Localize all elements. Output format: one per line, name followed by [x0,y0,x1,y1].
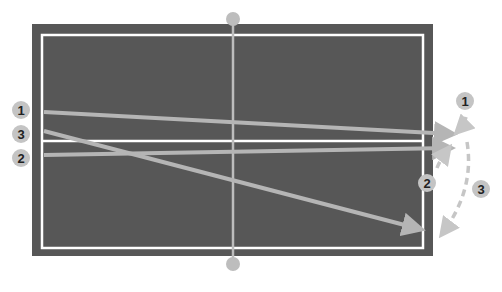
badge-number: 3 [17,127,24,142]
badge-number: 2 [17,151,24,166]
return-label-3: 3 [472,180,490,198]
return-label-2: 2 [418,174,436,192]
return-arrow-1 [457,117,466,132]
serve-label-2: 2 [12,149,30,167]
serve-labels: 132 [12,101,30,167]
return-arrow-2 [437,148,449,168]
badge-number: 1 [461,94,468,109]
badge-number: 1 [17,103,24,118]
badge-number: 2 [423,176,430,191]
net-post-top [226,12,240,26]
badge-number: 3 [477,182,484,197]
serve-diagram: 132 123 [0,0,502,292]
return-label-1: 1 [456,92,474,110]
return-arrow-3 [442,142,469,234]
serve-label-1: 1 [12,101,30,119]
net-post-bottom [226,257,240,271]
serve-label-3: 3 [12,125,30,143]
